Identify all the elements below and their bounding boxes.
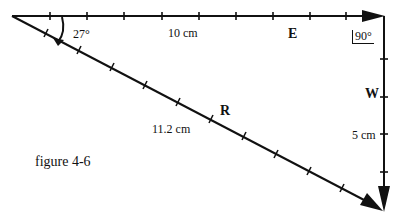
figure-caption: figure 4-6 — [35, 155, 91, 169]
e-vector-label: E — [288, 27, 297, 41]
vector-r — [12, 16, 383, 211]
angle-arc-icon — [53, 17, 64, 46]
e-length-label: 10 cm — [168, 27, 198, 39]
angle-label-corner: 90° — [352, 30, 374, 44]
angle-label-origin: 27° — [73, 28, 90, 40]
r-vector-label: R — [220, 104, 230, 118]
w-length-label: 5 cm — [352, 129, 376, 141]
r-length-label: 11.2 cm — [152, 123, 190, 135]
diagram-graphics — [0, 0, 397, 219]
w-vector-label: W — [365, 87, 379, 101]
vector-w — [378, 16, 390, 212]
vector-e — [12, 10, 385, 22]
vector-diagram: 27° 10 cm E 90° W 5 cm R 11.2 cm figure … — [0, 0, 397, 219]
